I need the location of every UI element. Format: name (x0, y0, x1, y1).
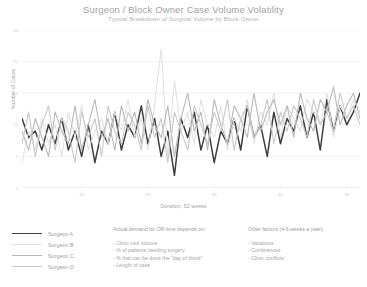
legend-item-label: Surgeon C (48, 253, 74, 259)
line-chart-svg (22, 30, 360, 188)
chart-title: Surgeon / Block Owner Case Volume Volati… (0, 4, 367, 15)
y-tick-label: 15 (6, 91, 18, 96)
series-line (22, 49, 360, 163)
notes-other-factors-item: - Conferences (248, 247, 324, 255)
legend-item-label: Surgeon A (48, 231, 73, 237)
legend-line-swatch (12, 255, 42, 256)
y-tick-label: 0 (6, 186, 18, 191)
chart-subtitle: Typical Breakdown of Surgical Volume by … (0, 16, 367, 22)
notes-other-factors-heading: Other factors (4-6 weeks a year): (248, 226, 324, 234)
notes-other-factors-item: - Vacations (248, 240, 324, 248)
y-tick-label: 20 (6, 59, 18, 64)
notes-demand-item: - Clinic visit volume (113, 240, 206, 248)
chart-legend: Surgeon ASurgeon BSurgeon CSurgeon D (12, 228, 104, 272)
notes-demand-heading: Actual demand for OR time depends on: (113, 226, 206, 234)
y-tick-label: 5 (6, 154, 18, 159)
legend-item-label: Surgeon D (48, 264, 74, 270)
y-tick-label: 10 (6, 122, 18, 127)
legend-item-surgeon-b[interactable]: Surgeon B (12, 239, 104, 250)
chart-container: Surgeon / Block Owner Case Volume Volati… (0, 0, 367, 287)
series-line (22, 93, 360, 175)
x-axis-label: Duration, 52 weeks (0, 203, 367, 209)
x-tick-label: 50 (339, 192, 355, 197)
notes-other-factors-item: - Clinic conflicts (248, 255, 324, 263)
y-axis-label: Number of Cases (10, 54, 16, 124)
x-tick-label: 30 (206, 192, 222, 197)
legend-item-surgeon-d[interactable]: Surgeon D (12, 261, 104, 272)
notes-other-factors-list: - Vacations- Conferences- Clinic conflic… (248, 240, 324, 263)
notes-other-factors: Other factors (4-6 weeks a year): - Vaca… (248, 226, 324, 262)
legend-item-surgeon-c[interactable]: Surgeon C (12, 250, 104, 261)
notes-demand: Actual demand for OR time depends on: - … (113, 226, 206, 270)
y-tick-label: 25 (6, 28, 18, 33)
legend-line-swatch (12, 233, 42, 234)
notes-demand-list: - Clinic visit volume- % of patients nee… (113, 240, 206, 270)
x-tick-label: 20 (140, 192, 156, 197)
legend-line-swatch (12, 266, 42, 267)
notes-demand-item: - % that can be done the "day of block" (113, 255, 206, 263)
plot-area (22, 30, 360, 188)
notes-demand-item: - Length of case (113, 262, 206, 270)
x-tick-label: 40 (272, 192, 288, 197)
notes-demand-item: - % of patients needing surgery (113, 247, 206, 255)
legend-line-swatch (12, 244, 42, 245)
x-tick-label: 10 (74, 192, 90, 197)
legend-item-label: Surgeon B (48, 242, 73, 248)
legend-item-surgeon-a[interactable]: Surgeon A (12, 228, 104, 239)
